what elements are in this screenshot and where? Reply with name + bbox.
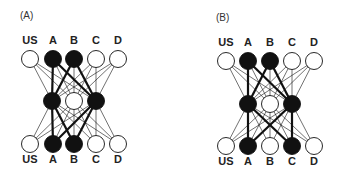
hidden-node-3	[284, 96, 301, 113]
output-label: C	[92, 153, 100, 165]
input-label: US	[218, 36, 233, 48]
input-node-d	[306, 53, 323, 70]
output-node-us	[218, 138, 235, 155]
input-label: C	[92, 34, 100, 46]
input-label: A	[244, 36, 252, 48]
output-node-us	[22, 136, 39, 153]
output-node-b	[262, 138, 279, 155]
hidden-node-3	[88, 93, 105, 110]
input-label: D	[114, 34, 122, 46]
network-diagram: (A)USUSAABBCCDD (B)USUSAABBCCDD	[0, 0, 342, 174]
output-node-c	[284, 138, 301, 155]
output-label: B	[70, 153, 78, 165]
output-label: US	[22, 153, 37, 165]
input-label: A	[49, 34, 57, 46]
output-label: D	[310, 155, 318, 167]
input-node-b	[262, 53, 279, 70]
edge-bottom	[248, 104, 314, 146]
output-node-a	[240, 138, 257, 155]
input-node-a	[45, 51, 62, 68]
input-node-b	[66, 51, 83, 68]
output-label: A	[49, 153, 57, 165]
output-node-b	[66, 136, 83, 153]
input-label: D	[310, 36, 318, 48]
hidden-node-1	[44, 93, 61, 110]
hidden-node-1	[240, 96, 257, 113]
output-node-c	[88, 136, 105, 153]
output-label: A	[244, 155, 252, 167]
panel-label: (B)	[216, 12, 229, 23]
input-label: US	[22, 34, 37, 46]
output-label: D	[114, 153, 122, 165]
output-label: B	[266, 155, 274, 167]
panel-a: (A)USUSAABBCCDD	[20, 10, 127, 165]
hidden-node-2	[262, 96, 279, 113]
output-label: US	[218, 155, 233, 167]
input-node-a	[240, 53, 257, 70]
panel-b: (B)USUSAABBCCDD	[216, 12, 323, 167]
output-node-d	[110, 136, 127, 153]
input-node-c	[284, 53, 301, 70]
input-node-c	[88, 51, 105, 68]
input-node-us	[22, 51, 39, 68]
input-label: C	[288, 36, 296, 48]
input-node-d	[110, 51, 127, 68]
hidden-node-2	[66, 93, 83, 110]
input-label: B	[266, 36, 274, 48]
output-node-d	[306, 138, 323, 155]
output-node-a	[45, 136, 62, 153]
input-node-us	[218, 53, 235, 70]
panel-label: (A)	[20, 10, 33, 21]
output-label: C	[288, 155, 296, 167]
input-label: B	[70, 34, 78, 46]
